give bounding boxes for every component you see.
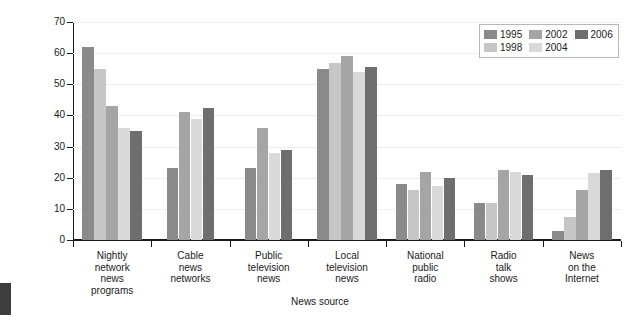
bar-group — [317, 22, 376, 240]
bar-group — [82, 22, 141, 240]
x-axis-category-label-line: news — [73, 273, 151, 285]
bar — [420, 172, 431, 241]
bar-group — [167, 22, 214, 240]
x-axis-category-label-line: National — [386, 250, 464, 262]
legend: 19952002200619982004 — [479, 24, 619, 58]
x-axis-tick-mark — [621, 241, 622, 247]
x-axis-category-label: Newson theInternet — [543, 250, 621, 285]
bar — [432, 186, 443, 241]
bar — [329, 63, 340, 241]
x-axis-category-label: Nightlynetworknewsprograms — [73, 250, 151, 296]
legend-item: 2004 — [529, 43, 567, 53]
x-axis-category-label-line: Internet — [543, 273, 621, 285]
x-axis-category-label-line: network — [73, 262, 151, 274]
x-axis-category-label-line: programs — [73, 285, 151, 297]
x-axis-category-label-line: News — [543, 250, 621, 262]
bar — [257, 128, 268, 240]
x-axis-title: News source — [0, 296, 640, 307]
legend-swatch — [529, 30, 542, 39]
x-axis-category-label-line: Radio — [464, 250, 542, 262]
x-axis-tick-mark — [73, 241, 74, 247]
x-axis-tick-mark — [386, 241, 387, 247]
x-axis-category-label-line: news — [308, 273, 386, 285]
chart-figure: Percent of Americans getting news from t… — [0, 0, 640, 321]
legend-swatch — [529, 43, 542, 52]
x-axis-category-label-line: news — [151, 262, 229, 274]
bar — [245, 168, 256, 240]
legend-label: 1995 — [500, 30, 522, 40]
bar — [408, 190, 419, 240]
legend-label: 2002 — [545, 30, 567, 40]
x-axis-tick-mark — [543, 241, 544, 247]
bar — [269, 153, 280, 240]
y-axis-title-line-2: from this source "every day" — [0, 0, 7, 26]
bar — [191, 119, 202, 240]
bar — [167, 168, 178, 240]
bar-group — [245, 22, 292, 240]
x-axis-category-label: Cablenewsnetworks — [151, 250, 229, 285]
y-axis-title: Percent of Americans getting news from t… — [0, 0, 7, 26]
legend-item: 1995 — [484, 30, 522, 40]
bar — [564, 217, 575, 240]
x-axis-category-label-line: television — [308, 262, 386, 274]
bar — [474, 203, 485, 240]
bar — [130, 131, 141, 240]
legend-swatch — [575, 30, 588, 39]
page-edge-mark — [0, 283, 11, 315]
x-axis-category-label-line: Nightly — [73, 250, 151, 262]
x-axis-tick-mark — [230, 241, 231, 247]
x-axis-category-label: Nationalpublicradio — [386, 250, 464, 285]
x-axis-category-label-line: Local — [308, 250, 386, 262]
x-axis-category-label-line: talk — [464, 262, 542, 274]
bar — [498, 170, 509, 240]
bar — [444, 178, 455, 240]
y-axis-tick-label: 70 — [41, 17, 65, 27]
legend-item: 2002 — [529, 30, 567, 40]
y-axis-tick-label: 20 — [41, 173, 65, 183]
x-axis-tick-mark — [464, 241, 465, 247]
bar — [522, 175, 533, 240]
x-axis-category-label-line: Cable — [151, 250, 229, 262]
legend-swatch — [484, 30, 497, 39]
legend-label: 1998 — [500, 43, 522, 53]
legend-swatch — [484, 43, 497, 52]
bar — [600, 170, 611, 240]
bar — [365, 67, 376, 240]
y-axis-tick-label: 50 — [41, 79, 65, 89]
x-axis-category-label: Publictelevisionnews — [230, 250, 308, 285]
y-axis-tick-label: 30 — [41, 142, 65, 152]
x-axis-tick-mark — [308, 241, 309, 247]
x-axis-category-label-line: television — [230, 262, 308, 274]
bar — [94, 69, 105, 240]
bar — [106, 106, 117, 240]
legend-item: 1998 — [484, 43, 522, 53]
legend-item: 2006 — [575, 30, 613, 40]
x-axis-category-label-line: Public — [230, 250, 308, 262]
bar — [179, 112, 190, 240]
x-axis-category-label-line: on the — [543, 262, 621, 274]
y-axis-tick-label: 60 — [41, 48, 65, 58]
bar — [353, 72, 364, 240]
bar — [281, 150, 292, 240]
bar — [510, 172, 521, 241]
x-axis-category-label-line: news — [230, 273, 308, 285]
bar — [118, 128, 129, 240]
x-axis-category-label: Localtelevisionnews — [308, 250, 386, 285]
y-axis-tick-label: 10 — [41, 204, 65, 214]
bar — [552, 231, 563, 240]
bar — [203, 108, 214, 240]
legend-label: 2006 — [591, 30, 613, 40]
bar — [317, 69, 328, 240]
x-axis-category-label-line: public — [386, 262, 464, 274]
bar — [588, 173, 599, 240]
bar — [82, 47, 93, 240]
x-axis-category-label: Radiotalkshows — [464, 250, 542, 285]
y-axis-tick-label: 0 — [41, 235, 65, 245]
x-axis-tick-mark — [151, 241, 152, 247]
x-axis-category-label-line: shows — [464, 273, 542, 285]
bar — [396, 184, 407, 240]
y-axis-tick-label: 40 — [41, 110, 65, 120]
legend-label: 2004 — [545, 43, 567, 53]
bar — [486, 203, 497, 240]
bar — [341, 56, 352, 240]
